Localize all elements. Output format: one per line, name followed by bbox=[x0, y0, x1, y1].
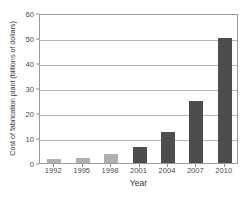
x-tick-label: 1992 bbox=[45, 166, 62, 175]
bar bbox=[47, 159, 61, 163]
bar bbox=[76, 158, 90, 164]
bar bbox=[161, 132, 175, 163]
y-axis-tick-labels: 0102030405060 bbox=[14, 14, 34, 164]
bar-chart: Cost of fabrication plant (billions of d… bbox=[0, 0, 252, 201]
x-tick-label: 1995 bbox=[73, 166, 90, 175]
bar bbox=[189, 101, 203, 164]
bar bbox=[218, 38, 232, 163]
bar-series bbox=[40, 15, 237, 163]
bar bbox=[133, 147, 147, 163]
x-axis-label: Year bbox=[39, 178, 238, 188]
x-tick-label: 2004 bbox=[158, 166, 175, 175]
x-tick-label: 2010 bbox=[215, 166, 232, 175]
y-tick-label: 10 bbox=[14, 135, 34, 144]
y-tick-label: 60 bbox=[14, 10, 34, 19]
y-tick-label: 40 bbox=[14, 60, 34, 69]
plot-area bbox=[39, 14, 238, 164]
x-tick-label: 1998 bbox=[102, 166, 119, 175]
x-axis-tick-labels: 1992199519982001200420072010 bbox=[39, 166, 238, 178]
bar bbox=[104, 154, 118, 163]
x-tick-label: 2007 bbox=[187, 166, 204, 175]
y-tick-label: 0 bbox=[14, 160, 34, 169]
y-tick-label: 30 bbox=[14, 85, 34, 94]
y-tick-label: 20 bbox=[14, 110, 34, 119]
x-tick-label: 2001 bbox=[130, 166, 147, 175]
y-tick-label: 50 bbox=[14, 35, 34, 44]
